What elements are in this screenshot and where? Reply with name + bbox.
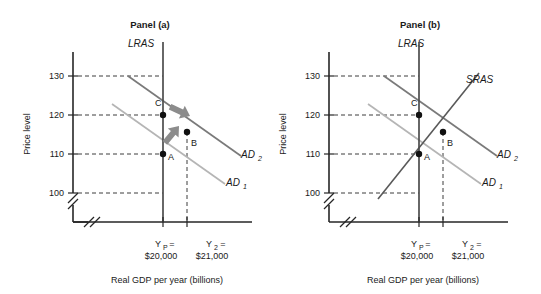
xmark-y2-group: Y 2 = $21,000 <box>196 239 229 261</box>
y-tick-label-110: 110 <box>306 149 320 159</box>
y-tick-label-100: 100 <box>305 188 320 198</box>
point-a-dot <box>160 151 166 157</box>
panel-a: Panel (a) LRAS <box>0 0 270 294</box>
xmark-y2-value: $21,000 <box>196 251 229 261</box>
ad1-label: AD <box>481 177 496 188</box>
lras-curve-label: LRAS <box>128 38 154 49</box>
y-tick-label-120: 120 <box>49 110 64 120</box>
xmark-yp-symbol: Y <box>155 239 161 249</box>
sras-label: SRAS <box>466 74 494 85</box>
panel-a-chart: Panel (a) LRAS <box>0 0 270 294</box>
panel-b: Panel (b) LRAS 130 120 <box>270 0 540 294</box>
point-b-label: B <box>447 138 453 148</box>
xmark-y2-symbol: Y <box>462 239 468 249</box>
ad1-curve <box>368 104 481 184</box>
xmark-yp-eq: = <box>425 239 430 249</box>
y-tick-label-120: 120 <box>305 110 320 120</box>
ad1-label-group: AD 1 <box>225 177 247 190</box>
panel-b-title: Panel (b) <box>400 19 440 30</box>
ad2-label-group: AD 2 <box>240 149 262 162</box>
point-a-label: A <box>424 152 430 162</box>
point-b-label: B <box>191 138 197 148</box>
x-axis-title: Real GDP per year (billions) <box>367 275 479 285</box>
point-c-label: C <box>155 98 162 108</box>
ad1-curve <box>112 104 225 184</box>
ad2-label-sub: 2 <box>257 155 262 162</box>
point-c-dot <box>416 112 422 118</box>
ad1-label-group: AD 1 <box>481 177 503 190</box>
sras-curve <box>378 73 479 199</box>
xmark-y2-eq: = <box>220 239 225 249</box>
lras-curve-label: LRAS <box>398 38 424 49</box>
xmark-y2-symbol: Y <box>206 239 212 249</box>
point-b-dot <box>440 129 446 135</box>
x-axis-title: Real GDP per year (billions) <box>111 275 223 285</box>
xmark-yp-group: Y P = $20,000 <box>145 239 178 261</box>
xmark-y2-value: $21,000 <box>452 251 485 261</box>
point-a-dot <box>416 151 422 157</box>
xmark-yp-sub: P <box>163 244 168 251</box>
xmark-yp-value: $20,000 <box>401 251 434 261</box>
point-b-dot <box>184 129 190 135</box>
ad2-label-group: AD 2 <box>496 149 518 162</box>
ad2-label: AD <box>240 149 255 160</box>
y-tick-label-110: 110 <box>50 149 64 159</box>
xmark-y2-eq: = <box>476 239 481 249</box>
point-c-label: C <box>411 98 418 108</box>
ad-as-figure: Panel (a) LRAS <box>0 0 541 294</box>
panel-b-chart: Panel (b) LRAS 130 120 <box>270 0 541 294</box>
ad1-label-sub: 1 <box>499 183 503 190</box>
y-tick-label-130: 130 <box>49 71 64 81</box>
ad1-label: AD <box>225 177 240 188</box>
y-axis-title: Price level <box>278 113 288 155</box>
xmark-yp-value: $20,000 <box>145 251 178 261</box>
xmark-yp-eq: = <box>169 239 174 249</box>
y-tick-label-100: 100 <box>49 188 64 198</box>
ad2-label-sub: 2 <box>513 155 518 162</box>
panel-a-title: Panel (a) <box>130 19 170 30</box>
xmark-y2-sub: 2 <box>470 244 474 251</box>
point-c-dot <box>160 112 166 118</box>
xmark-y2-sub: 2 <box>214 244 218 251</box>
ad1-label-sub: 1 <box>243 183 247 190</box>
y-tick-label-130: 130 <box>305 71 320 81</box>
y-axis-title: Price level <box>22 113 32 155</box>
ad2-label: AD <box>496 149 511 160</box>
ad2-curve <box>384 76 497 156</box>
point-a-label: A <box>168 152 174 162</box>
xmark-yp-sub: P <box>419 244 424 251</box>
xmark-y2-group: Y 2 = $21,000 <box>452 239 485 261</box>
xmark-yp-group: Y P = $20,000 <box>401 239 434 261</box>
xmark-yp-symbol: Y <box>411 239 417 249</box>
